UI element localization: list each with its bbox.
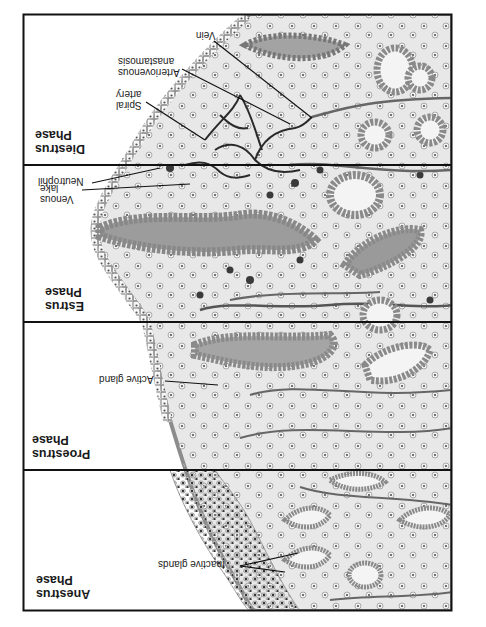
endometrium-cycle-diagram: Vein Arteriovenous anastamosis Spiral ar… bbox=[0, 0, 486, 627]
phase-title-estrus: Estrus Phase bbox=[45, 285, 84, 313]
phase-title-anestrus: Anestrus Phase bbox=[36, 573, 90, 601]
label-vein: Vein bbox=[196, 30, 215, 41]
tissue-illustration bbox=[0, 0, 486, 627]
label-spiral-artery: Spiral artery bbox=[116, 89, 142, 111]
label-venous-lake: Venous lake bbox=[40, 183, 73, 205]
phase-title-diestrus: Diestrus Phase bbox=[35, 128, 85, 156]
label-inactive-glands: Inactive glands bbox=[158, 559, 225, 570]
label-arteriovenous-anastamosis: Arteriovenous anastamosis bbox=[118, 56, 180, 78]
phase-title-proestrus: Proestrus Phase bbox=[32, 433, 90, 461]
label-active-gland: Active gland bbox=[99, 374, 153, 385]
